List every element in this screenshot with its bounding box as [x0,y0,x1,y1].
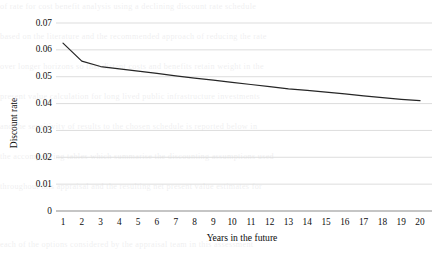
x-axis-tick-label: 1 [54,217,72,227]
x-axis-title: Years in the future [63,232,421,243]
y-axis-tick-label: 0 [18,206,52,216]
x-axis-tick-label: 11 [242,217,260,227]
x-axis-tick-label: 8 [186,217,204,227]
discount-rate-line-chart: of rate for cost benefit analysis using … [0,0,442,261]
x-axis-tick-label: 18 [373,217,391,227]
x-axis-tick-label: 17 [355,217,373,227]
x-axis-tick-label: 9 [204,217,222,227]
x-axis-tick-label: 7 [167,217,185,227]
x-axis-tick-label: 12 [261,217,279,227]
y-axis-tick-label: 0.03 [18,125,52,135]
x-axis-tick-label: 16 [336,217,354,227]
x-axis-tick-label: 20 [411,217,429,227]
y-axis-tick-label: 0.06 [18,44,52,54]
x-axis-tick-label: 14 [298,217,316,227]
discount-rate-series-line [63,43,420,100]
x-axis-tick-label: 5 [129,217,147,227]
y-axis-tick-label: 0.07 [18,18,52,28]
x-axis-tick-label: 6 [148,217,166,227]
y-axis-tick-label: 0.01 [18,179,52,189]
x-axis-tick-label: 15 [317,217,335,227]
x-axis-tick-label: 19 [392,217,410,227]
x-axis-tick-label: 3 [92,217,110,227]
x-axis-tick-label: 2 [73,217,91,227]
y-axis-tick-label: 0.04 [18,98,52,108]
gridlines [56,23,432,184]
x-axis-tick-label: 13 [279,217,297,227]
x-axis-tick-label: 4 [110,217,128,227]
y-axis-tick-label: 0.02 [18,152,52,162]
y-axis-title: Discount rate [9,83,19,163]
x-axis-tick-label: 10 [223,217,241,227]
y-axis-tick-label: 0.05 [18,71,52,81]
